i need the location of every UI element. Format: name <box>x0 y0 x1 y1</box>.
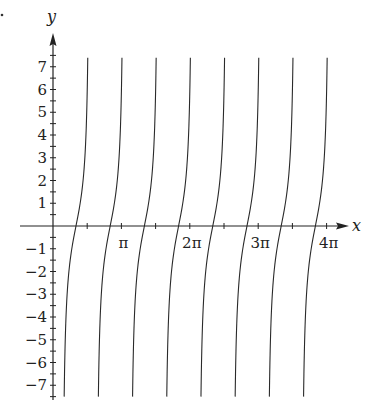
y-tick-label: 1 <box>37 194 47 212</box>
y-tick-label: 4 <box>37 126 47 144</box>
curve-family <box>64 58 327 397</box>
curve-branch <box>304 58 328 397</box>
curve-branch <box>269 58 293 397</box>
stray-dot <box>1 14 4 17</box>
curve-branch <box>98 58 122 397</box>
y-tick-label: −5 <box>25 331 47 349</box>
curve-branch <box>64 58 88 397</box>
curve-branch <box>167 58 191 397</box>
y-tick-label: −3 <box>25 285 47 303</box>
y-tick-label: −4 <box>25 308 47 326</box>
curve-branch <box>201 58 225 397</box>
x-tick-label: 3π <box>250 234 270 252</box>
curve-branch <box>133 58 157 397</box>
y-tick-label: −7 <box>25 376 47 394</box>
y-tick-label: −1 <box>25 240 47 258</box>
y-tick-label: −6 <box>25 354 47 372</box>
y-tick-label: 7 <box>37 58 47 76</box>
y-tick-label: 2 <box>37 172 47 190</box>
x-tick-label: 2π <box>182 234 202 252</box>
y-tick-label: −2 <box>25 263 47 281</box>
y-tick-label: 6 <box>37 81 47 99</box>
curve-branch <box>235 58 259 397</box>
x-tick-label: π <box>118 234 128 252</box>
x-tick-label: 4π <box>319 234 339 252</box>
chart-plot-area: π2π3π4π 7654321−1−2−3−4−5−6−7 x y <box>0 0 369 404</box>
y-axis-label: y <box>46 7 57 26</box>
y-tick-label: 3 <box>37 149 47 167</box>
x-axis-label: x <box>352 216 361 235</box>
y-tick-label: 5 <box>37 103 47 121</box>
